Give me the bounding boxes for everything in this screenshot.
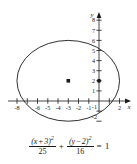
equation-term-2: (y − 2)2 16	[67, 138, 94, 156]
ellipse-equation: (x + 3)2 25 + (y − 2)2 16 = 1	[28, 138, 110, 156]
x-tick-label: -5	[45, 104, 50, 111]
term-1-operator: +	[38, 137, 43, 146]
term-1-exponent: 2	[51, 135, 54, 141]
y-axis-point	[97, 79, 101, 83]
ellipse-figure: -8 -6 -5 -4 -3 -2 -1 2 8 7 6 5 4 3 2 1 -…	[0, 0, 137, 164]
equation-right-side: 1	[105, 142, 109, 151]
ellipse-plot: -8 -6 -5 -4 -3 -2 -1 2 8 7 6 5 4 3 2 1 -…	[0, 0, 137, 128]
y-tick-label: 1	[92, 87, 95, 94]
y-tick-label: -1	[92, 103, 97, 110]
y-tick-label: 6	[92, 37, 95, 44]
y-tick-label: 5	[92, 47, 95, 54]
x-tick-label: -4	[55, 104, 60, 111]
equation-equals-sign: =	[97, 142, 102, 151]
x-tick-label: -1	[86, 104, 91, 111]
term-2-operator: −	[76, 137, 81, 146]
term-1-variable: x	[34, 137, 38, 146]
x-tick-label: -2	[76, 104, 81, 111]
x-axis-label: x	[126, 103, 131, 111]
y-tick-label: 2	[92, 77, 95, 84]
y-axis	[97, 12, 102, 112]
y-tick-label: 3	[92, 67, 95, 74]
equation-plus-sign: +	[59, 142, 64, 151]
term-2-denominator: 16	[74, 147, 86, 156]
term-2-variable: y	[72, 137, 76, 146]
term-2-exponent: 2	[89, 135, 92, 141]
y-tick-label: 4	[92, 57, 95, 64]
x-tick-label: 2	[118, 104, 121, 111]
y-tick-label: 7	[92, 27, 95, 34]
term-1-numerator: (x + 3)2	[29, 138, 56, 147]
x-tick-label: -6	[35, 104, 40, 111]
y-tick-label: -2	[92, 113, 97, 120]
y-tick-labels: 8 7 6 5 4 3 2 1 -1 -2	[92, 16, 97, 119]
center-point	[67, 79, 71, 83]
equation-caption: (x + 3)2 25 + (y − 2)2 16 = 1	[0, 129, 137, 164]
x-tick-label: -3	[66, 104, 71, 111]
term-1-denominator: 25	[36, 147, 48, 156]
term-2-numerator: (y − 2)2	[67, 138, 94, 147]
x-tick-label: -8	[14, 104, 19, 111]
equation-term-1: (x + 3)2 25	[29, 138, 56, 156]
